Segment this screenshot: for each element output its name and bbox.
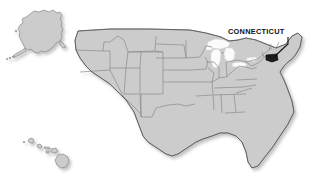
island-lanai [46, 151, 49, 153]
alaska-island-kodiak [15, 30, 17, 32]
aleutian-island-1 [9, 57, 11, 59]
island-niihau [23, 141, 25, 143]
us-map: CONNECTICUT [0, 0, 314, 183]
contiguous-states [75, 29, 302, 168]
island-maui [51, 148, 58, 153]
inset-alaska [6, 10, 66, 60]
callout-label-connecticut: CONNECTICUT [228, 27, 285, 36]
island-hawaii [55, 154, 69, 168]
aleutian-island-3 [13, 56, 15, 58]
state-alaska [18, 10, 63, 53]
island-oahu [37, 144, 42, 148]
alaska-panhandle [60, 41, 66, 48]
inset-hawaii [23, 138, 69, 168]
island-molokai [44, 147, 50, 149]
aleutian-island-2 [6, 58, 7, 59]
island-kauai [28, 138, 34, 143]
alaska-peninsula [12, 48, 26, 57]
